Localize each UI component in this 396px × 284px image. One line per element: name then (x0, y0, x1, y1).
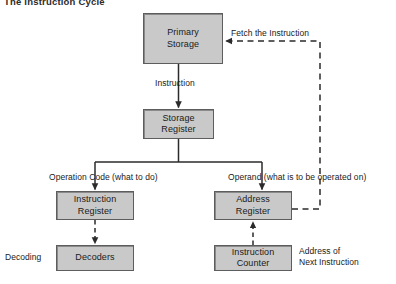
node-instruction-register[interactable]: Instruction Register (56, 191, 134, 220)
node-decoders[interactable]: Decoders (56, 245, 134, 271)
label-address-of-next-instruction-line2: Next Instruction (299, 257, 359, 268)
node-address-register-line1: Address (236, 194, 270, 206)
node-instruction-counter-line1: Instruction (232, 247, 275, 259)
instruction-cycle-diagram: The Instruction Cycle (0, 0, 396, 284)
label-fetch-the-instruction: Fetch the Instruction (231, 28, 309, 39)
label-operand: Operand (what is to be operated on) (228, 172, 366, 183)
connector-address-register-to-primary-storage (226, 41, 320, 209)
node-storage-register-line1: Storage (162, 113, 194, 125)
node-address-register[interactable]: Address Register (214, 191, 292, 220)
label-address-of-next-instruction-line1: Address of (299, 246, 359, 257)
node-primary-storage-line2: Storage (167, 39, 199, 51)
node-instruction-register-line2: Register (78, 206, 112, 218)
node-primary-storage[interactable]: Primary Storage (143, 13, 223, 64)
node-address-register-line2: Register (236, 206, 270, 218)
node-primary-storage-line1: Primary (167, 27, 199, 39)
label-operation-code: Operation Code (what to do) (49, 172, 158, 183)
label-instruction: Instruction (155, 78, 195, 89)
node-instruction-register-line1: Instruction (74, 194, 117, 206)
node-instruction-counter[interactable]: Instruction Counter (214, 245, 292, 271)
node-storage-register[interactable]: Storage Register (143, 109, 214, 139)
label-decoding: Decoding (5, 252, 41, 263)
node-decoders-line1: Decoders (75, 252, 114, 264)
node-storage-register-line2: Register (161, 124, 195, 136)
label-address-of-next-instruction: Address of Next Instruction (299, 246, 359, 267)
node-instruction-counter-line2: Counter (237, 258, 270, 270)
